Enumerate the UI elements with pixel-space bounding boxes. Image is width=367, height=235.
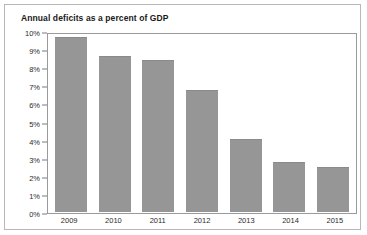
plot-wrapper: 0%1%2%3%4%5%6%7%8%9%10%	[47, 33, 357, 214]
chart-card: Annual deficits as a percent of GDP 0%1%…	[4, 4, 361, 230]
bar-slot	[49, 35, 93, 212]
x-axis-tick-label: 2014	[268, 216, 312, 225]
plot-area	[47, 33, 357, 214]
y-axis-tick-mark	[42, 177, 47, 178]
x-axis: 2009201020112012201320142015	[47, 216, 357, 225]
x-axis-tick-label: 2013	[224, 216, 268, 225]
bar[interactable]	[142, 60, 174, 212]
y-axis-tick-mark	[42, 69, 47, 70]
y-axis-tick-mark	[42, 159, 47, 160]
x-axis-tick-label: 2009	[47, 216, 91, 225]
bar-slot	[311, 35, 355, 212]
y-axis-tick-mark	[42, 141, 47, 142]
y-axis-tick-mark	[42, 105, 47, 106]
bar[interactable]	[55, 37, 87, 212]
y-axis-tick-mark	[42, 214, 47, 215]
x-axis-tick-label: 2011	[136, 216, 180, 225]
bar[interactable]	[230, 139, 262, 212]
bar-series	[49, 35, 355, 212]
y-axis-tick-mark	[42, 123, 47, 124]
bar-slot	[180, 35, 224, 212]
y-axis-tick-mark	[42, 33, 47, 34]
x-axis-tick-label: 2010	[91, 216, 135, 225]
bar-slot	[136, 35, 180, 212]
bar-slot	[224, 35, 268, 212]
bar[interactable]	[99, 56, 131, 212]
bar[interactable]	[273, 162, 305, 212]
bar-slot	[93, 35, 137, 212]
y-axis-tick-mark	[42, 195, 47, 196]
x-axis-tick-label: 2012	[180, 216, 224, 225]
chart-title: Annual deficits as a percent of GDP	[21, 13, 169, 23]
x-axis-tick-label: 2015	[313, 216, 357, 225]
y-axis-tick-mark	[42, 51, 47, 52]
bar[interactable]	[186, 90, 218, 212]
bar[interactable]	[317, 167, 349, 212]
y-axis-tick-mark	[42, 87, 47, 88]
bar-slot	[268, 35, 312, 212]
